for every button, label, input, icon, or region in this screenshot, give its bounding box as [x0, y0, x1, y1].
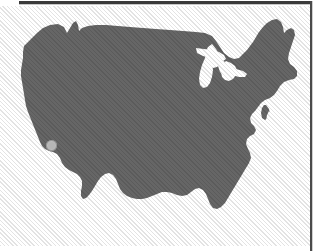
us-map-figure: [0, 6, 310, 246]
location-marker-core: [48, 142, 55, 149]
location-marker[interactable]: [46, 140, 57, 151]
us-mainland-path: [21, 19, 297, 209]
right-border-rule-shadow: [312, 1, 313, 251]
us-map-svg: [0, 6, 310, 246]
scanned-page: [0, 0, 329, 251]
top-border-rule-shadow: [19, 4, 311, 5]
us-landmass-group: [21, 19, 297, 209]
